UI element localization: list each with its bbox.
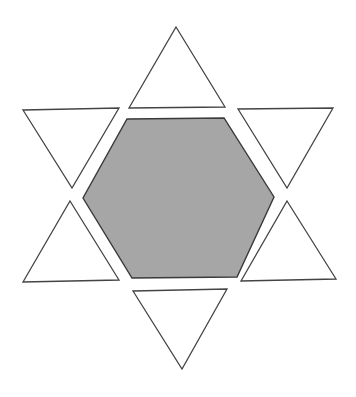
triangle-bottom (133, 289, 227, 369)
central-hexagon (83, 118, 274, 278)
star-hexagon-diagram (0, 0, 356, 397)
triangle-top (129, 27, 225, 108)
